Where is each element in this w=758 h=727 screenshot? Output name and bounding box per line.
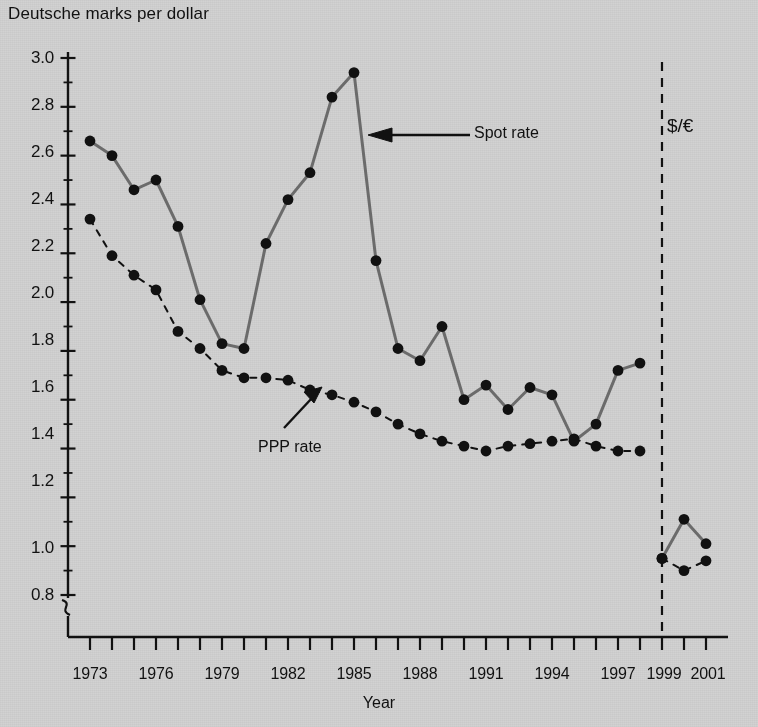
ppp-rate-point (217, 365, 228, 376)
spot-rate-line (662, 519, 706, 558)
ppp-rate-point (283, 375, 294, 386)
ppp-rate-point (107, 250, 118, 261)
ppp-rate-point (679, 565, 690, 576)
ppp-rate-point (371, 407, 382, 418)
ppp-rate-point (547, 436, 558, 447)
ppp-rate-point (261, 372, 272, 383)
spot-rate-point (173, 221, 184, 232)
spot-rate-point (591, 419, 602, 430)
spot-rate-point (217, 338, 228, 349)
ppp-rate-point (635, 446, 646, 457)
ppp-rate-arrow-shaft (284, 398, 312, 428)
ppp-rate-point (415, 429, 426, 440)
spot-rate-line (90, 73, 640, 442)
ppp-rate-point (459, 441, 470, 452)
spot-rate-point (327, 92, 338, 103)
ppp-rate-point (503, 441, 514, 452)
spot-rate-point (305, 167, 316, 178)
spot-rate-point (459, 394, 470, 405)
spot-rate-point (679, 514, 690, 525)
spot-rate-point (437, 321, 448, 332)
spot-rate-point (503, 404, 514, 415)
spot-rate-point (481, 380, 492, 391)
spot-rate-point (393, 343, 404, 354)
ppp-rate-point (437, 436, 448, 447)
ppp-rate-point (481, 446, 492, 457)
spot-rate-point (415, 355, 426, 366)
spot-rate-point (195, 294, 206, 305)
spot-rate-point (635, 358, 646, 369)
ppp-rate-point (657, 553, 668, 564)
spot-rate-point (525, 382, 536, 393)
plot-area (0, 0, 758, 727)
ppp-rate-point (349, 397, 360, 408)
spot-rate-point (701, 538, 712, 549)
spot-rate-point (349, 67, 360, 78)
ppp-rate-point (151, 285, 162, 296)
ppp-rate-point (613, 446, 624, 457)
ppp-rate-point (701, 555, 712, 566)
ppp-rate-point (525, 438, 536, 449)
spot-rate-point (547, 389, 558, 400)
spot-rate-point (371, 255, 382, 266)
spot-rate-point (261, 238, 272, 249)
axis-break-icon (62, 600, 70, 615)
spot-rate-arrow-head (368, 128, 392, 142)
spot-rate-point (151, 175, 162, 186)
spot-rate-point (85, 136, 96, 147)
ppp-rate-point (569, 433, 580, 444)
spot-rate-point (283, 194, 294, 205)
ppp-rate-point (393, 419, 404, 430)
ppp-rate-line (90, 219, 640, 451)
ppp-rate-point (173, 326, 184, 337)
spot-rate-point (107, 150, 118, 161)
ppp-rate-point (239, 372, 250, 383)
ppp-rate-point (129, 270, 140, 281)
ppp-rate-point (591, 441, 602, 452)
spot-rate-point (613, 365, 624, 376)
exchange-rate-chart: Deutsche marks per dollar Year 3.0 2.8 2… (0, 0, 758, 727)
ppp-rate-point (327, 389, 338, 400)
spot-rate-point (129, 184, 140, 195)
ppp-rate-point (195, 343, 206, 354)
ppp-rate-point (85, 214, 96, 225)
spot-rate-point (239, 343, 250, 354)
